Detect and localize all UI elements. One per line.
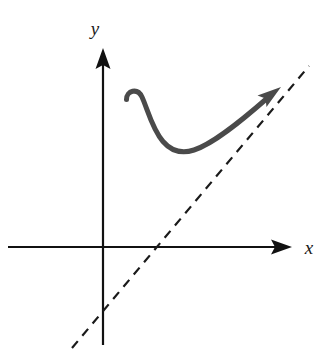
dashed-asymptote-line bbox=[72, 66, 309, 348]
figure-container: y x bbox=[0, 0, 330, 358]
y-axis-label: y bbox=[89, 18, 100, 39]
x-axis-label: x bbox=[304, 237, 314, 258]
coordinate-plane-diagram: y x bbox=[0, 0, 330, 358]
approaching-curve-path bbox=[127, 91, 269, 152]
